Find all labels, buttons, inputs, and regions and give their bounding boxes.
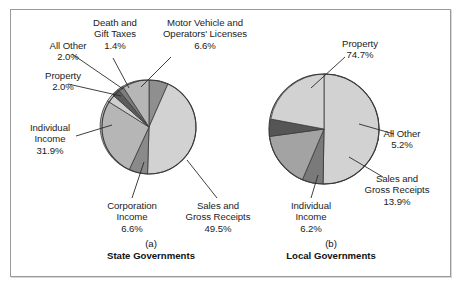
label-sales-b-line1: Sales and [349, 173, 445, 184]
label-sales-gross-receipts-a: Sales and Gross Receipts 49.5% [171, 200, 265, 234]
caption-b-name: Local Governments [257, 250, 405, 262]
caption-a-letter: (a) [77, 238, 225, 250]
label-individual-income-b-pct: 6.2% [269, 223, 353, 234]
label-motor-vehicle-a-line2: Operators' Licenses [151, 28, 259, 39]
label-all-other-b-line1: All Other [369, 128, 435, 139]
label-individual-income-a-pct: 31.9% [19, 145, 81, 156]
label-sales-gross-receipts-b: Sales and Gross Receipts 13.9% [349, 173, 445, 207]
label-motor-vehicle-a: Motor Vehicle and Operators' Licenses 6.… [151, 17, 259, 51]
label-sales-b-line2: Gross Receipts [349, 184, 445, 195]
label-motor-vehicle-a-pct: 6.6% [151, 40, 259, 51]
label-property-a: Property 2.0% [27, 70, 99, 93]
caption-a-name: State Governments [77, 250, 225, 262]
label-death-gift-a-line2: Gift Taxes [77, 28, 153, 39]
label-sales-a-line2: Gross Receipts [171, 211, 265, 222]
label-death-gift-a-line1: Death and [77, 17, 153, 28]
caption-panel-a: (a) State Governments [77, 238, 225, 262]
label-corporation-income-a-line1: Corporation [89, 200, 175, 211]
caption-panel-b: (b) Local Governments [257, 238, 405, 262]
label-all-other-b: All Other 5.2% [369, 128, 435, 151]
label-individual-income-b: Individual Income 6.2% [269, 200, 353, 234]
label-corporation-income-a: Corporation Income 6.6% [89, 200, 175, 234]
label-individual-income-a-line1: Individual [19, 122, 81, 133]
label-sales-a-line1: Sales and [171, 200, 265, 211]
label-property-a-pct: 2.0% [27, 81, 99, 92]
pie-local-governments [269, 74, 379, 184]
label-all-other-a-pct: 2.0% [32, 51, 104, 62]
label-property-a-line1: Property [27, 70, 99, 81]
label-all-other-b-pct: 5.2% [369, 139, 435, 150]
label-individual-income-b-line1: Individual [269, 200, 353, 211]
pie-state-governments [100, 80, 196, 174]
label-sales-a-pct: 49.5% [171, 223, 265, 234]
label-property-b-pct: 74.7% [323, 49, 397, 60]
figure-frame: All Other 2.0% Property 2.0% Death and G… [10, 9, 451, 277]
label-property-b-line1: Property [323, 38, 397, 49]
leader-sales-a [187, 160, 217, 198]
label-corporation-income-a-line2: Income [89, 211, 175, 222]
label-corporation-income-a-pct: 6.6% [89, 223, 175, 234]
label-motor-vehicle-a-line1: Motor Vehicle and [151, 17, 259, 28]
label-sales-b-pct: 13.9% [349, 196, 445, 207]
label-individual-income-a-line2: Income [19, 133, 81, 144]
label-individual-income-a: Individual Income 31.9% [19, 122, 81, 156]
label-death-gift-a-pct: 1.4% [77, 40, 153, 51]
label-property-b: Property 74.7% [323, 38, 397, 61]
label-death-gift-taxes-a: Death and Gift Taxes 1.4% [77, 17, 153, 51]
caption-b-letter: (b) [257, 238, 405, 250]
label-individual-income-b-line2: Income [269, 211, 353, 222]
slice-filler-b [271, 74, 324, 129]
